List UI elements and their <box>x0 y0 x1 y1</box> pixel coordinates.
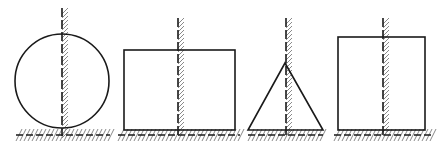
figures-svg <box>0 0 444 153</box>
figure-triangle <box>248 18 326 141</box>
rectangle-outline <box>338 37 425 130</box>
axis-hatching <box>62 8 68 138</box>
axis-hatching <box>178 18 184 136</box>
diagram-canvas <box>0 0 444 153</box>
figure-rectangle-square <box>334 18 436 141</box>
axis-hatching <box>286 18 292 136</box>
figure-rectangle-wide <box>118 18 244 141</box>
figure-circle <box>15 8 114 141</box>
axis-hatching <box>383 18 389 136</box>
